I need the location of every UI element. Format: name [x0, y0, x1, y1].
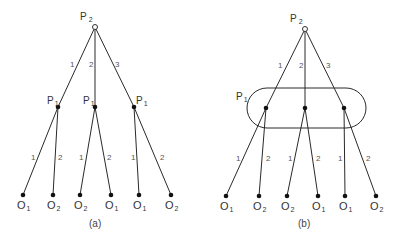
outcome-node — [109, 193, 114, 198]
move-label: 2 — [266, 154, 271, 163]
outcome-label: O2 — [281, 200, 295, 213]
p1-node — [303, 106, 308, 111]
root-player-label: P2 — [290, 13, 303, 25]
p1-label: P1 — [83, 95, 95, 107]
outcome-node — [137, 193, 142, 198]
move-label: 1 — [79, 153, 84, 162]
outcome-label: O2 — [253, 200, 267, 213]
p1-label: P1 — [136, 95, 148, 107]
move-label: 1 — [278, 61, 283, 70]
outcome-label: O2 — [74, 199, 88, 212]
move-label: 1 — [70, 60, 75, 69]
move-label: 2 — [160, 153, 165, 162]
outcome-label: O1 — [105, 199, 119, 212]
panel-b: P2 1 2 3 P1 1 2 1 2 1 2 O1 O2 O2 O1 O1 O… — [220, 13, 384, 229]
edge — [23, 107, 58, 195]
root-node — [303, 27, 308, 32]
root-node — [93, 25, 98, 30]
edge-root-move-3 — [305, 29, 344, 108]
move-label: 1 — [31, 153, 36, 162]
move-label: 1 — [131, 153, 136, 162]
panel-a: P2 1 2 3 P1 P1 P1 1 2 1 2 1 2 O1 O2 O2 O… — [17, 11, 179, 229]
move-label: 2 — [89, 60, 94, 69]
root-player-label: P2 — [80, 11, 93, 23]
move-label: 1 — [236, 154, 241, 163]
edge — [134, 107, 139, 195]
edge — [53, 107, 58, 195]
move-label: 2 — [299, 61, 304, 70]
move-label: 2 — [316, 154, 321, 163]
outcome-label: O1 — [133, 199, 147, 212]
edge — [344, 108, 345, 196]
move-label: 2 — [366, 154, 371, 163]
outcome-node — [224, 194, 229, 199]
p1-node — [342, 106, 347, 111]
outcome-label: O2 — [370, 200, 384, 213]
outcome-label: O1 — [312, 200, 326, 213]
p1-node — [264, 106, 269, 111]
information-set-label: P1 — [236, 91, 248, 103]
outcome-node — [51, 193, 56, 198]
outcome-node — [169, 193, 174, 198]
outcome-node — [374, 194, 379, 199]
move-label: 2 — [107, 153, 112, 162]
outcome-node — [316, 194, 321, 199]
move-label: 1 — [288, 154, 293, 163]
outcome-node — [78, 193, 83, 198]
edge — [305, 108, 318, 196]
move-label: 3 — [115, 60, 120, 69]
outcome-label: O1 — [17, 199, 31, 212]
outcome-node — [343, 194, 348, 199]
outcome-node — [21, 193, 26, 198]
move-label: 1 — [338, 154, 343, 163]
outcome-label: O2 — [165, 199, 179, 212]
game-tree-figure: P2 1 2 3 P1 P1 P1 1 2 1 2 1 2 O1 O2 O2 O… — [0, 0, 400, 238]
outcome-node — [257, 194, 262, 199]
outcome-label: O1 — [220, 200, 234, 213]
outcome-label: O2 — [47, 199, 61, 212]
edge — [134, 107, 171, 195]
panel-b-caption: (b) — [298, 218, 310, 229]
edge — [344, 108, 376, 196]
outcome-label: O1 — [339, 200, 353, 213]
p1-label: P1 — [47, 95, 59, 107]
outcome-node — [285, 194, 290, 199]
move-label: 3 — [326, 61, 331, 70]
edge — [80, 107, 95, 195]
panel-a-caption: (a) — [89, 218, 101, 229]
move-label: 2 — [58, 153, 63, 162]
edge — [287, 108, 305, 196]
edge — [95, 107, 111, 195]
